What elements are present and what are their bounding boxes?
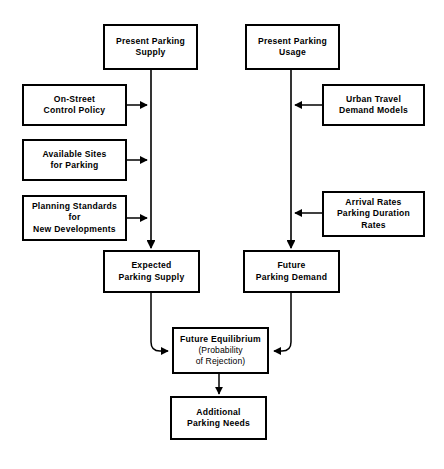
node-on-street-control-policy: On-StreetControl Policy (22, 84, 127, 126)
node-label-line: for Parking (50, 160, 98, 171)
node-label-line: Parking Supply (118, 272, 184, 283)
node-label-line: Parking Demand (256, 272, 327, 283)
node-label-line: Parking Duration (337, 208, 410, 219)
flowchart-diagram: Present ParkingSupplyPresent ParkingUsag… (0, 0, 444, 469)
node-label-line: Parking Needs (187, 418, 250, 429)
node-label-line: Control Policy (44, 105, 106, 116)
node-label-line: Planning Standards (32, 201, 117, 212)
node-additional-parking-needs: AdditionalParking Needs (170, 396, 267, 440)
node-arrival-rates: Arrival RatesParking DurationRates (322, 191, 425, 237)
node-label-line: for (68, 212, 80, 223)
node-label-line: Future Equilibrium (180, 334, 261, 345)
node-label-line: On-Street (54, 94, 95, 105)
node-present-parking-supply: Present ParkingSupply (103, 24, 198, 70)
node-label-line: Present Parking (116, 36, 185, 47)
node-future-parking-demand: FutureParking Demand (243, 250, 340, 293)
node-label-line: Urban Travel (346, 94, 401, 105)
node-label-line: Future (277, 260, 305, 271)
node-present-parking-usage: Present ParkingUsage (245, 24, 340, 70)
node-available-sites-for-parking: Available Sitesfor Parking (22, 139, 127, 181)
node-label-line: Additional (196, 407, 241, 418)
edge-expected-supply-to-equilibrium (151, 293, 168, 351)
node-label-line: Supply (135, 47, 165, 58)
node-expected-parking-supply: ExpectedParking Supply (103, 250, 200, 293)
edge-future-demand-to-equilibrium (274, 293, 291, 351)
node-label-line: of Rejection) (196, 356, 246, 367)
node-label-line: New Developments (33, 224, 116, 235)
node-label-line: Arrival Rates (345, 197, 401, 208)
node-label-line: Available Sites (42, 149, 106, 160)
node-urban-travel-demand-models: Urban TravelDemand Models (322, 84, 425, 126)
node-label-line: Present Parking (258, 36, 327, 47)
node-label-line: (Probability (198, 345, 242, 356)
node-label-line: Demand Models (339, 105, 408, 116)
node-future-equilibrium: Future Equilibrium(Probabilityof Rejecti… (172, 327, 269, 374)
node-label-line: Rates (361, 220, 386, 231)
node-label-line: Usage (279, 47, 306, 58)
node-planning-standards: Planning StandardsforNew Developments (22, 195, 127, 241)
node-label-line: Expected (131, 260, 171, 271)
